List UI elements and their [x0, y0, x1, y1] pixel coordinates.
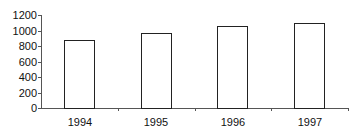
y-tick-label: 400 — [19, 71, 37, 83]
bar-1995 — [141, 33, 172, 109]
y-tick-label: 200 — [19, 87, 37, 99]
y-tick — [38, 46, 41, 47]
x-tick — [271, 108, 272, 111]
y-tick — [38, 31, 41, 32]
y-tick-label: 600 — [19, 56, 37, 68]
bar-chart: 0 200 400 600 800 1000 1200 1994 1995 19… — [0, 0, 355, 134]
y-tick — [38, 93, 41, 94]
y-tick-label: 800 — [19, 40, 37, 52]
x-tick-label: 1997 — [280, 116, 340, 128]
y-tick — [38, 15, 41, 16]
y-tick — [38, 108, 41, 109]
x-tick — [348, 108, 349, 111]
y-tick-label: 0 — [31, 102, 37, 114]
x-tick — [195, 108, 196, 111]
bar-1997 — [294, 23, 325, 109]
x-tick-label: 1994 — [50, 116, 110, 128]
y-axis — [41, 15, 42, 108]
bar-1994 — [64, 40, 95, 109]
y-tick-label: 1000 — [13, 25, 37, 37]
x-tick-label: 1996 — [203, 116, 263, 128]
x-tick — [118, 108, 119, 111]
y-tick — [38, 62, 41, 63]
y-tick-label: 1200 — [13, 9, 37, 21]
y-tick — [38, 77, 41, 78]
x-tick-label: 1995 — [126, 116, 186, 128]
bar-1996 — [217, 26, 248, 109]
